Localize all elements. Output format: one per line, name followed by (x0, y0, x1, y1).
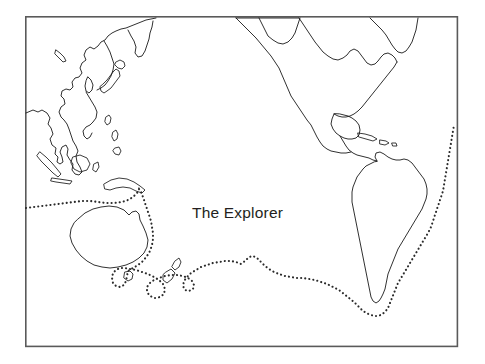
map-border-frame (26, 17, 458, 347)
map-title-label: The Explorer (192, 204, 283, 221)
map-figure: The Explorer (0, 0, 485, 364)
map-canvas: The Explorer (0, 0, 485, 364)
